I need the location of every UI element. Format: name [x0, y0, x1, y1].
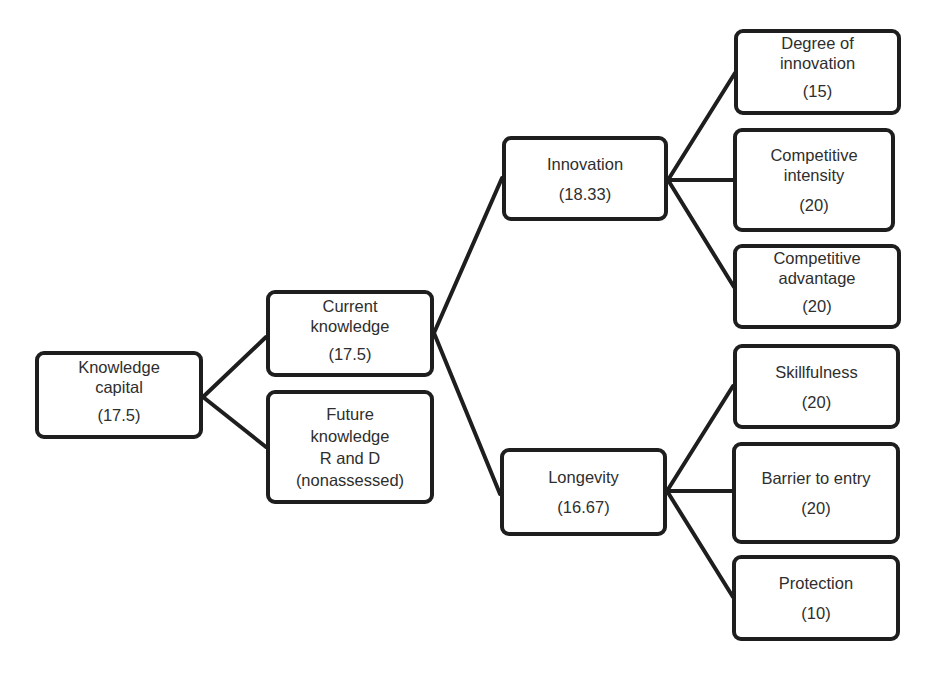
edge-knowledge-capital-to-current-knowledge — [203, 337, 266, 397]
node-score: (10) — [801, 603, 830, 623]
edge-longevity-to-skillfulness — [667, 386, 733, 491]
node-longevity: Longevity (16.67) — [500, 448, 667, 536]
node-skillfulness: Skillfulness (20) — [733, 344, 900, 429]
node-score: (20) — [801, 498, 830, 518]
node-label: Innovation — [547, 154, 623, 174]
node-label: Current knowledge — [311, 296, 390, 336]
node-future-knowledge: Future knowledge R and D (nonassessed) — [266, 390, 434, 504]
node-score: (17.5) — [328, 344, 371, 364]
node-label: Competitive intensity — [770, 145, 857, 185]
node-score: (17.5) — [97, 405, 140, 425]
node-label: Future knowledge R and D (nonassessed) — [296, 403, 404, 491]
node-current-knowledge: Current knowledge (17.5) — [266, 290, 434, 377]
node-score: (16.67) — [557, 497, 609, 517]
edge-longevity-to-protection — [667, 491, 733, 597]
node-knowledge-capital: Knowledge capital (17.5) — [35, 351, 203, 439]
node-score: (20) — [799, 195, 828, 215]
node-label: Longevity — [548, 467, 619, 487]
node-degree-of-innovation: Degree of innovation (15) — [734, 29, 901, 115]
node-label: Degree of innovation — [780, 33, 855, 73]
node-barrier-to-entry: Barrier to entry (20) — [732, 442, 900, 544]
edge-knowledge-capital-to-future-knowledge — [203, 397, 266, 447]
node-competitive-advantage: Competitive advantage (20) — [733, 244, 901, 329]
node-label: Barrier to entry — [761, 468, 870, 488]
edge-innovation-to-competitive-advantage — [668, 180, 734, 287]
node-label: Skillfulness — [775, 362, 858, 382]
node-label: Competitive advantage — [773, 248, 860, 288]
node-score: (18.33) — [559, 184, 611, 204]
node-protection: Protection (10) — [732, 555, 900, 641]
edge-current-knowledge-to-innovation — [434, 178, 502, 333]
node-label: Protection — [779, 573, 853, 593]
node-label: Knowledge capital — [78, 357, 160, 397]
node-innovation: Innovation (18.33) — [502, 136, 668, 221]
node-score: (15) — [803, 81, 832, 101]
node-score: (20) — [802, 392, 831, 412]
edge-innovation-to-degree-of-innovation — [668, 73, 735, 180]
knowledge-capital-tree-diagram: Knowledge capital (17.5) Current knowled… — [0, 0, 941, 674]
node-score: (20) — [802, 296, 831, 316]
node-competitive-intensity: Competitive intensity (20) — [733, 128, 895, 232]
edge-current-knowledge-to-longevity — [434, 333, 500, 494]
